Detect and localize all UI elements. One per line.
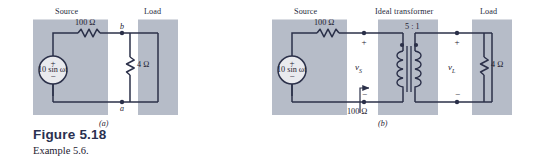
figure-stage: Source Load 100 Ω 4 Ω 10 sin ωt + − b a … <box>0 0 535 167</box>
node-dot-vs-bottom <box>362 100 366 104</box>
panel-label-source-b: Source <box>294 7 317 16</box>
panel-label-load-b: Load <box>480 7 497 16</box>
node-dot-vl-bottom <box>455 100 459 104</box>
panel-header-rule-load-b <box>472 20 512 22</box>
resistor-a-4ohm <box>127 57 135 75</box>
source-plus-b: + <box>290 59 295 68</box>
node-dot-vs-top <box>362 31 366 35</box>
figure-caption: Example 5.6. <box>33 145 89 156</box>
node-dot-vl-top <box>455 31 459 35</box>
node-label-b-a: b <box>120 22 124 31</box>
node-dot-b-a <box>120 31 124 35</box>
node-label-a-a: a <box>120 104 124 113</box>
panel-header-rule-load-a <box>138 20 178 22</box>
transformer-dot-secondary <box>414 43 418 47</box>
vl-subscript: L <box>452 68 455 74</box>
panel-label-transformer-b: Ideal transformer <box>375 7 433 16</box>
resistor-label-100ohm-a: 100 Ω <box>75 18 95 27</box>
source-minus-a: − <box>51 72 56 81</box>
sublabel-b: (b) <box>378 119 387 128</box>
vs-plus-sign: + <box>362 38 367 47</box>
vl-label: vL <box>448 62 455 74</box>
vl-minus-sign: − <box>455 90 460 99</box>
vs-label: vS <box>355 62 362 74</box>
panel-header-rule-source-b <box>272 20 347 22</box>
resistor-label-4ohm-b: 4 Ω <box>491 60 503 69</box>
source-plus-a: + <box>51 59 56 68</box>
vl-plus-sign: + <box>455 38 460 47</box>
turns-ratio-label: 5 : 1 <box>405 22 420 31</box>
panel-label-load-a: Load <box>144 7 161 16</box>
panel-label-source-a: Source <box>55 7 78 16</box>
source-minus-b: − <box>290 72 295 81</box>
panel-header-rule-source-a <box>33 20 108 22</box>
vs-subscript: S <box>359 68 362 74</box>
resistor-label-100ohm-b: 100 Ω <box>314 18 334 27</box>
transformer-dot-primary <box>400 43 404 47</box>
vs-minus-sign: − <box>362 90 367 99</box>
panel-header-rule-transformer-b <box>378 20 438 22</box>
figure-title: Figure 5.18 <box>33 127 106 142</box>
resistor-label-4ohm-a: 4 Ω <box>137 60 149 69</box>
panel-transformer-b <box>378 21 438 115</box>
reflected-resistor-label-b: 100 Ω <box>347 107 367 116</box>
